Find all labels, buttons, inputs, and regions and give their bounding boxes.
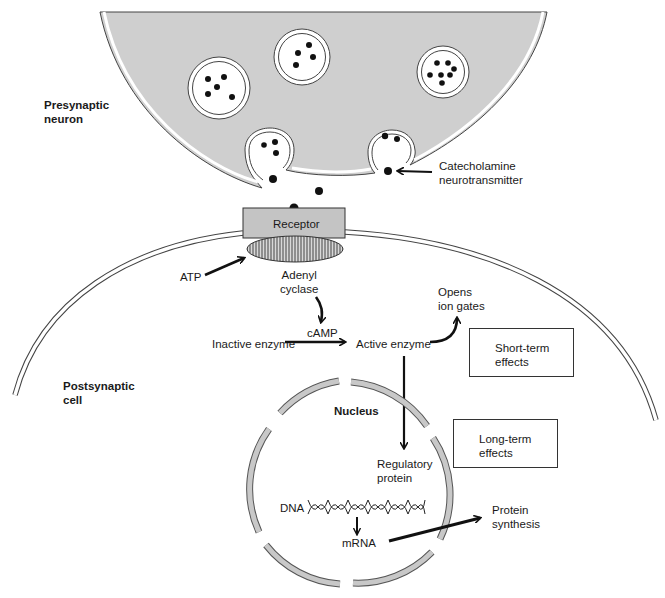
label-line: Postsynaptic xyxy=(63,379,135,393)
label-line: synthesis xyxy=(492,517,540,531)
synapse-diagram: Presynaptic neuron Catecholamine neurotr… xyxy=(0,0,665,598)
label-line: neurotransmitter xyxy=(439,173,523,187)
inactive-enzyme-label: Inactive enzyme xyxy=(212,337,295,351)
diagram-graphics xyxy=(0,0,665,598)
label-line: cyclase xyxy=(280,282,318,296)
label-line: Adenyl xyxy=(280,268,318,282)
dna-label: DNA xyxy=(280,501,304,515)
mrna-label: mRNA xyxy=(342,536,376,550)
presynaptic-neuron-label: Presynaptic neuron xyxy=(44,98,109,126)
camp-label: cAMP xyxy=(307,326,338,340)
label-line: Opens xyxy=(438,285,485,299)
long-term-effects-box: Long-term effects xyxy=(453,419,558,468)
label-line: Regulatory xyxy=(377,457,433,471)
label-line: cell xyxy=(63,393,135,407)
synaptic-vesicle xyxy=(188,57,250,119)
adenyl-cyclase xyxy=(247,236,343,262)
synaptic-vesicle xyxy=(417,46,469,98)
label-line: Long-term xyxy=(479,432,557,446)
adenyl-cyclase-label: Adenyl cyclase xyxy=(280,268,318,296)
label-line: Presynaptic xyxy=(44,98,109,112)
neurotransmitter-pointer-arrow xyxy=(398,171,432,172)
postsynaptic-cell-label: Postsynaptic cell xyxy=(63,379,135,407)
translation-arrow xyxy=(389,518,480,541)
catecholamine-neurotransmitter-label: Catecholamine neurotransmitter xyxy=(439,159,523,187)
label-line: Catecholamine xyxy=(439,159,523,173)
regulatory-protein-label: Regulatory protein xyxy=(377,457,433,485)
protein-synthesis-label: Protein synthesis xyxy=(492,503,540,531)
ion-gates-arrow xyxy=(430,318,457,342)
receptor-label: Receptor xyxy=(273,217,320,231)
synaptic-vesicle xyxy=(274,29,330,85)
active-enzyme-label: Active enzyme xyxy=(356,337,431,351)
label-line: ion gates xyxy=(438,299,485,313)
opens-ion-gates-label: Opens ion gates xyxy=(438,285,485,313)
nucleus-label: Nucleus xyxy=(334,404,379,418)
label-line: effects xyxy=(495,355,573,369)
label-line: effects xyxy=(479,446,557,460)
label-line: Protein xyxy=(492,503,540,517)
atp-arrow xyxy=(205,258,244,275)
label-line: neuron xyxy=(44,112,109,126)
short-term-effects-box: Short-term effects xyxy=(469,328,574,377)
label-line: Short-term xyxy=(495,341,573,355)
label-line: protein xyxy=(377,471,433,485)
dna-helix xyxy=(308,500,425,514)
camp-production-arrow xyxy=(316,297,322,322)
atp-label: ATP xyxy=(180,270,202,284)
